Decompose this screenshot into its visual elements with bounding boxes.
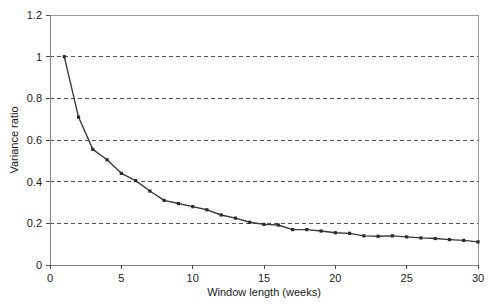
y-tick-label-0: 0 (36, 259, 42, 271)
y-axis-title: Variance ratio (8, 106, 20, 173)
x-axis-title: Window length (weeks) (207, 286, 321, 298)
data-point-18 (305, 228, 308, 231)
data-point-1 (63, 55, 66, 58)
variance-ratio-line-chart: 00.20.40.60.811.2 051015202530 Window le… (0, 0, 497, 307)
y-tick-label-0.8: 0.8 (27, 92, 42, 104)
data-point-17 (291, 228, 294, 231)
data-point-6 (134, 179, 137, 182)
data-point-8 (163, 199, 166, 202)
y-tick-label-1.2: 1.2 (27, 9, 42, 21)
data-point-26 (419, 236, 422, 239)
data-point-23 (377, 235, 380, 238)
data-point-16 (277, 223, 280, 226)
data-point-25 (405, 235, 408, 238)
x-tick-label-10: 10 (187, 272, 199, 284)
data-point-2 (77, 115, 80, 118)
data-point-3 (91, 148, 94, 151)
data-point-28 (448, 238, 451, 241)
y-tick-label-0.4: 0.4 (27, 176, 42, 188)
data-point-11 (205, 208, 208, 211)
data-point-30 (476, 240, 479, 243)
x-tick-label-0: 0 (47, 272, 53, 284)
x-tick-label-15: 15 (258, 272, 270, 284)
data-point-14 (248, 221, 251, 224)
data-point-27 (434, 237, 437, 240)
x-tick-label-25: 25 (401, 272, 413, 284)
data-point-12 (220, 213, 223, 216)
chart-background (0, 0, 497, 307)
y-tick-label-0.6: 0.6 (27, 134, 42, 146)
x-tick-label-5: 5 (118, 272, 124, 284)
y-tick-label-0.2: 0.2 (27, 217, 42, 229)
data-point-21 (348, 232, 351, 235)
y-tick-label-1: 1 (36, 51, 42, 63)
chart-figure: 00.20.40.60.811.2 051015202530 Window le… (0, 0, 497, 307)
data-point-13 (234, 217, 237, 220)
data-point-29 (462, 239, 465, 242)
data-point-7 (148, 189, 151, 192)
data-point-5 (120, 172, 123, 175)
data-point-15 (262, 223, 265, 226)
x-tick-label-20: 20 (329, 272, 341, 284)
data-point-10 (191, 205, 194, 208)
data-point-19 (319, 229, 322, 232)
data-point-22 (362, 234, 365, 237)
data-point-24 (391, 234, 394, 237)
data-point-9 (177, 202, 180, 205)
x-tick-label-30: 30 (472, 272, 484, 284)
data-point-4 (105, 158, 108, 161)
data-point-20 (334, 231, 337, 234)
